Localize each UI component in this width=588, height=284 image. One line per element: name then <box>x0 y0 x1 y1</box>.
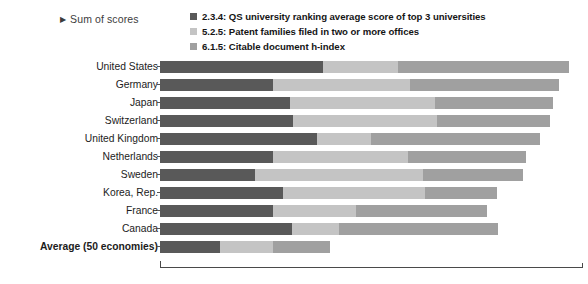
category-label: Germany <box>116 76 158 94</box>
category-label: Average (50 economies) <box>40 238 158 256</box>
bar-segment[interactable] <box>160 97 290 109</box>
chart-row: Germany <box>0 76 588 94</box>
stacked-bar[interactable] <box>160 133 540 145</box>
stacked-bar[interactable] <box>160 169 523 181</box>
legend-label: 2.3.4: QS university ranking average sco… <box>202 11 486 22</box>
stacked-bar[interactable] <box>160 61 569 73</box>
chart-row: Sweden <box>0 166 588 184</box>
stacked-bar-chart: ▶Sum of scores 2.3.4: QS university rank… <box>0 0 588 284</box>
bar-segment[interactable] <box>356 205 487 217</box>
bar-segment[interactable] <box>371 133 540 145</box>
category-label: Canada <box>122 220 158 238</box>
bar-segment[interactable] <box>160 133 317 145</box>
bar-segment[interactable] <box>273 241 330 253</box>
category-label: Netherlands <box>102 148 158 166</box>
bar-segment[interactable] <box>290 97 435 109</box>
bar-segment[interactable] <box>160 61 323 73</box>
bar-segment[interactable] <box>160 187 283 199</box>
bar-segment[interactable] <box>423 169 523 181</box>
bar-segment[interactable] <box>160 205 273 217</box>
chart-header: ▶Sum of scores 2.3.4: QS university rank… <box>0 0 588 58</box>
chart-row: Switzerland <box>0 112 588 130</box>
bar-segment[interactable] <box>339 223 498 235</box>
x-axis-line <box>160 267 583 268</box>
series-toggle-label: Sum of scores <box>70 13 138 25</box>
series-toggle[interactable]: ▶Sum of scores <box>60 13 139 25</box>
stacked-bar[interactable] <box>160 79 559 91</box>
bar-segment[interactable] <box>273 151 408 163</box>
chart-row: United Kingdom <box>0 130 588 148</box>
bar-segment[interactable] <box>160 151 273 163</box>
bar-segment[interactable] <box>398 61 569 73</box>
stacked-bar[interactable] <box>160 187 497 199</box>
bar-segment[interactable] <box>435 97 553 109</box>
bar-segment[interactable] <box>317 133 371 145</box>
bar-segment[interactable] <box>273 205 356 217</box>
chart-row: Korea, Rep. <box>0 184 588 202</box>
bar-segment[interactable] <box>292 223 339 235</box>
legend-swatch-icon <box>190 43 197 50</box>
bar-segment[interactable] <box>220 241 273 253</box>
stacked-bar[interactable] <box>160 115 550 127</box>
legend-label: 6.1.5: Citable document h-index <box>202 41 345 52</box>
legend-item[interactable]: 2.3.4: QS university ranking average sco… <box>190 9 580 23</box>
category-label: United States <box>96 58 158 76</box>
bar-segment[interactable] <box>160 223 292 235</box>
plot-area: United StatesGermanyJapanSwitzerlandUnit… <box>0 58 588 284</box>
chart-row: France <box>0 202 588 220</box>
bar-segment[interactable] <box>160 115 293 127</box>
bar-segment[interactable] <box>425 187 497 199</box>
bar-segment[interactable] <box>323 61 398 73</box>
bar-segment[interactable] <box>160 79 273 91</box>
bar-segment[interactable] <box>293 115 437 127</box>
stacked-bar[interactable] <box>160 223 498 235</box>
chart-row: Canada <box>0 220 588 238</box>
stacked-bar[interactable] <box>160 205 487 217</box>
chart-row: Average (50 economies) <box>0 238 588 256</box>
legend-item[interactable]: 5.2.5: Patent families filed in two or m… <box>190 24 580 38</box>
x-axis-end-cap <box>582 263 583 268</box>
category-label: United Kingdom <box>85 130 158 148</box>
stacked-bar[interactable] <box>160 151 526 163</box>
category-label: Sweden <box>121 166 158 184</box>
category-label: Korea, Rep. <box>103 184 158 202</box>
bar-segment[interactable] <box>408 151 526 163</box>
legend-item[interactable]: 6.1.5: Citable document h-index <box>190 39 580 53</box>
bar-segment[interactable] <box>283 187 425 199</box>
bar-segment[interactable] <box>160 169 255 181</box>
legend-swatch-icon <box>190 28 197 35</box>
bar-segment[interactable] <box>160 241 220 253</box>
bar-segment[interactable] <box>273 79 410 91</box>
legend-swatch-icon <box>190 13 197 20</box>
chart-row: United States <box>0 58 588 76</box>
bar-segment[interactable] <box>410 79 559 91</box>
category-label: Japan <box>130 94 158 112</box>
category-label: Switzerland <box>105 112 158 130</box>
bar-segment[interactable] <box>437 115 551 127</box>
triangle-right-icon: ▶ <box>60 16 66 24</box>
legend-label: 5.2.5: Patent families filed in two or m… <box>202 26 419 37</box>
category-label: France <box>126 202 158 220</box>
chart-row: Japan <box>0 94 588 112</box>
stacked-bar[interactable] <box>160 241 330 253</box>
chart-row: Netherlands <box>0 148 588 166</box>
chart-legend: 2.3.4: QS university ranking average sco… <box>190 9 580 54</box>
stacked-bar[interactable] <box>160 97 553 109</box>
bar-segment[interactable] <box>255 169 423 181</box>
